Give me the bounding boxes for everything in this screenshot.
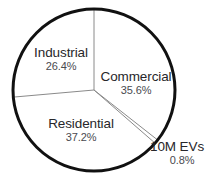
pie-slice-industrial[interactable] bbox=[13, 9, 94, 97]
pie-chart-graphic bbox=[0, 0, 221, 183]
pie-chart: Industrial 26.4% Commercial 35.6% Reside… bbox=[0, 0, 221, 183]
